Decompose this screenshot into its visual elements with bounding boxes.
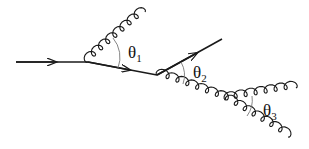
- outgoing-quark-line: [157, 39, 222, 75]
- gluon-3b-path: [225, 95, 291, 137]
- theta2-label: θ2: [193, 64, 207, 84]
- feynman-diagram: θ1 θ2 θ3: [0, 0, 309, 149]
- theta3-label: θ3: [263, 102, 277, 122]
- theta2-arc: [181, 62, 184, 84]
- theta1-label: θ1: [128, 44, 142, 64]
- diagram-graphic: [0, 0, 309, 149]
- intermediate-quark-line: [88, 62, 157, 75]
- theta1-arc: [113, 38, 120, 68]
